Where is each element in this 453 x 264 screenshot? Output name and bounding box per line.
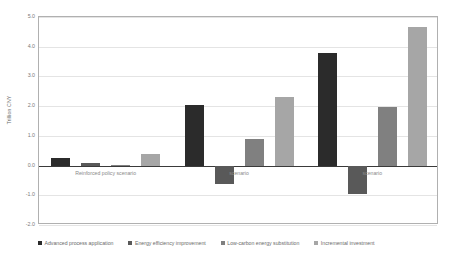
- bar: [51, 158, 70, 166]
- legend-swatch-icon: [38, 241, 42, 245]
- y-axis-title-text: Trillion CNY: [6, 96, 12, 125]
- y-axis-tick: 5.0: [28, 13, 35, 19]
- legend-item[interactable]: Incremental investment: [314, 240, 374, 246]
- bar: [348, 166, 367, 194]
- legend-label: Energy efficiency improvement: [135, 240, 206, 246]
- legend-label: Incremental investment: [321, 240, 375, 246]
- bar: [81, 163, 100, 165]
- bar: [111, 165, 130, 166]
- y-axis-tick: 2.0: [28, 102, 35, 108]
- y-axis-tick: 4.0: [28, 43, 35, 49]
- legend-swatch-icon: [221, 241, 225, 245]
- y-axis-tick-labels: 5.04.03.02.01.00.0-1.0-2.0: [14, 16, 38, 224]
- y-axis-tick: 1.0: [28, 132, 35, 138]
- gridline: [39, 225, 437, 226]
- legend-swatch-icon: [128, 241, 132, 245]
- bar: [245, 139, 264, 166]
- y-axis-tick: 0.0: [28, 162, 35, 168]
- legend-label: Advanced process application: [45, 240, 114, 246]
- bar: [185, 105, 204, 166]
- legend-label: Low-carbon energy substitution: [227, 240, 299, 246]
- plot-area: Reinforced policy scenarioscenarioscenar…: [38, 16, 438, 224]
- bar: [378, 107, 397, 166]
- bar: [408, 27, 427, 165]
- legend-swatch-icon: [314, 241, 318, 245]
- bars-layer: [39, 17, 437, 223]
- bar: [141, 154, 160, 166]
- bar: [318, 53, 337, 166]
- y-axis-tick: -2.0: [26, 221, 35, 227]
- y-axis-tick: -1.0: [26, 191, 35, 197]
- chart-legend: Advanced process applicationEnergy effic…: [38, 240, 438, 246]
- y-axis-tick: 3.0: [28, 72, 35, 78]
- bar-chart: Trillion CNY 5.04.03.02.01.00.0-1.0-2.0 …: [0, 0, 453, 264]
- legend-item[interactable]: Advanced process application: [38, 240, 113, 246]
- legend-item[interactable]: Low-carbon energy substitution: [221, 240, 300, 246]
- bar: [215, 166, 234, 184]
- bar: [275, 97, 294, 166]
- legend-item[interactable]: Energy efficiency improvement: [128, 240, 205, 246]
